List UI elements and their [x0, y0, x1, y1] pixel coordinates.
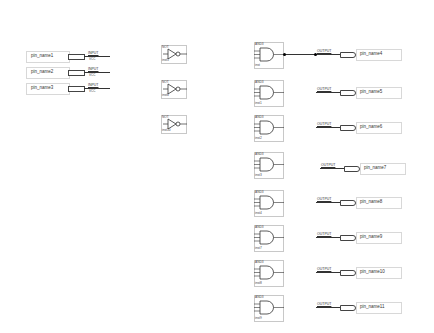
wire — [316, 237, 340, 238]
output-pin-type: OUTPUT — [317, 122, 331, 126]
output-pin[interactable]: OUTPUTpin_name4 — [316, 49, 402, 61]
output-pin-name: pin_name11 — [360, 304, 384, 309]
output-pin-symbol — [340, 125, 356, 131]
input-pin-type: INPUT — [88, 51, 99, 55]
and-gate-icon — [254, 225, 284, 251]
input-pin-name: pin_name3 — [31, 85, 53, 90]
output-pin-type: OUTPUT — [317, 197, 331, 201]
not-gate[interactable]: NOTinst10 — [161, 115, 187, 133]
input-pin-default: VCC — [89, 73, 95, 77]
and-gate[interactable]: AND3inst — [254, 42, 284, 68]
wire — [316, 202, 340, 203]
output-pin-type: OUTPUT — [317, 267, 331, 271]
and-gate[interactable]: AND3inst4 — [254, 190, 284, 216]
and-gate[interactable]: AND3inst3 — [254, 152, 284, 178]
and-gate[interactable]: AND3inst8 — [254, 260, 284, 286]
input-pin-symbol — [68, 54, 85, 60]
output-pin[interactable]: OUTPUTpin_name11 — [316, 302, 402, 314]
not-gate[interactable]: NOTinst6 — [161, 80, 187, 98]
output-pin-symbol — [340, 52, 356, 58]
input-pin-symbol — [68, 86, 85, 92]
and-gate[interactable]: AND3inst9 — [254, 295, 284, 321]
input-pin-symbol — [68, 70, 85, 76]
not-gate[interactable]: NOTinst5 — [161, 45, 187, 63]
input-pin[interactable]: pin_name3INPUTVCC — [26, 83, 116, 95]
output-pin-name: pin_name5 — [360, 89, 382, 94]
wire — [284, 54, 316, 55]
wire — [84, 72, 110, 73]
junction-dot — [314, 53, 317, 56]
wire — [316, 272, 340, 273]
input-pin-name: pin_name1 — [31, 53, 53, 58]
input-pin-default: VCC — [89, 57, 95, 61]
not-gate-icon — [161, 45, 187, 63]
wire — [316, 54, 340, 55]
not-gate-icon — [161, 115, 187, 133]
output-pin-name: pin_name4 — [360, 51, 382, 56]
output-pin-symbol — [340, 90, 356, 96]
and-gate-icon — [254, 80, 284, 106]
input-pin-name: pin_name2 — [31, 69, 53, 74]
output-pin-name: pin_name6 — [360, 124, 382, 129]
output-pin-name: pin_name10 — [360, 269, 385, 274]
output-pin-name: pin_name9 — [360, 234, 382, 239]
output-pin-symbol — [340, 200, 356, 206]
output-pin-type: OUTPUT — [317, 232, 331, 236]
output-pin-symbol — [340, 235, 356, 241]
output-pin[interactable]: OUTPUTpin_name10 — [316, 267, 402, 279]
wire — [84, 88, 110, 89]
output-pin-type: OUTPUT — [317, 49, 331, 53]
output-pin-symbol — [340, 270, 356, 276]
output-pin-type: OUTPUT — [321, 163, 335, 167]
and-gate-icon — [254, 260, 284, 286]
output-pin-symbol — [344, 166, 360, 172]
output-pin-symbol — [340, 305, 356, 311]
input-pin-type: INPUT — [88, 83, 99, 87]
output-pin[interactable]: OUTPUTpin_name5 — [316, 87, 402, 99]
output-pin[interactable]: OUTPUTpin_name6 — [316, 122, 402, 134]
and-gate-icon — [254, 42, 284, 68]
junction-dot — [283, 53, 286, 56]
not-gate-icon — [161, 80, 187, 98]
wire — [316, 307, 340, 308]
and-gate-icon — [254, 190, 284, 216]
output-pin-type: OUTPUT — [317, 87, 331, 91]
input-pin-type: INPUT — [88, 67, 99, 71]
wire — [320, 168, 344, 169]
input-pin[interactable]: pin_name2INPUTVCC — [26, 67, 116, 79]
output-pin[interactable]: OUTPUTpin_name8 — [316, 197, 402, 209]
input-pin-default: VCC — [89, 89, 95, 93]
output-pin-name: pin_name7 — [364, 165, 386, 170]
and-gate-icon — [254, 295, 284, 321]
and-gate[interactable]: AND3inst2 — [254, 115, 284, 141]
and-gate-icon — [254, 152, 284, 178]
and-gate[interactable]: AND3inst7 — [254, 225, 284, 251]
output-pin-type: OUTPUT — [317, 302, 331, 306]
and-gate[interactable]: AND3inst1 — [254, 80, 284, 106]
wire — [316, 92, 340, 93]
wire — [84, 56, 110, 57]
input-pin[interactable]: pin_name1INPUTVCC — [26, 51, 116, 63]
and-gate-icon — [254, 115, 284, 141]
output-pin[interactable]: OUTPUTpin_name9 — [316, 232, 402, 244]
output-pin-name: pin_name8 — [360, 199, 382, 204]
output-pin[interactable]: OUTPUTpin_name7 — [320, 163, 406, 175]
wire — [316, 127, 340, 128]
